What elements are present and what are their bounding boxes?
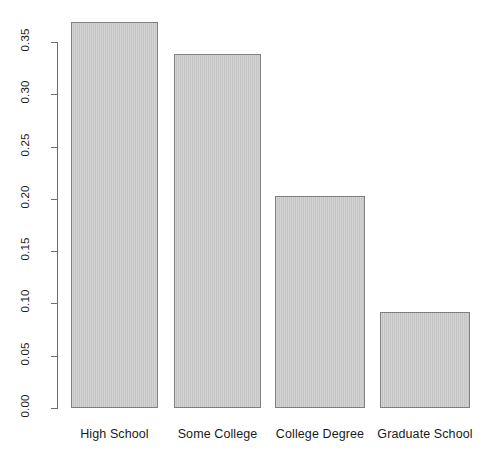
y-axis-tick-label-text: 0.10 bbox=[19, 278, 31, 324]
x-axis-label-graduate-school: Graduate School bbox=[362, 427, 488, 441]
y-axis-tick-label-text: 0.30 bbox=[19, 69, 31, 115]
bar-chart: 0.350.300.250.200.150.100.050.00 High Sc… bbox=[0, 0, 494, 467]
y-axis-tick-label: 0.15 bbox=[2, 243, 48, 259]
y-axis-tick bbox=[51, 303, 58, 304]
y-axis-tick-label: 0.05 bbox=[2, 348, 48, 364]
y-axis-tick-label-text: 0.15 bbox=[19, 226, 31, 272]
y-axis-tick-label-text: 0.00 bbox=[19, 383, 31, 429]
y-axis-tick-label: 0.30 bbox=[2, 86, 48, 102]
plot-area: 0.350.300.250.200.150.100.050.00 High Sc… bbox=[0, 0, 494, 467]
y-axis-tick-label: 0.20 bbox=[2, 191, 48, 207]
y-axis-tick bbox=[51, 147, 58, 148]
bar-graduate-school bbox=[380, 312, 470, 408]
y-axis-tick-label-text: 0.35 bbox=[19, 17, 31, 63]
bar-high-school bbox=[71, 22, 158, 408]
bar-college-degree bbox=[275, 196, 365, 408]
y-axis-tick bbox=[51, 356, 58, 357]
y-axis-tick bbox=[51, 408, 58, 409]
y-axis-tick-label-text: 0.25 bbox=[19, 122, 31, 168]
y-axis-tick-label: 0.25 bbox=[2, 139, 48, 155]
y-axis-tick bbox=[51, 199, 58, 200]
y-axis-tick-label: 0.10 bbox=[2, 295, 48, 311]
y-axis-tick-label: 0.00 bbox=[2, 400, 48, 416]
y-axis-tick-label-text: 0.05 bbox=[19, 331, 31, 377]
y-axis-tick-label: 0.35 bbox=[2, 34, 48, 50]
y-axis-tick bbox=[51, 42, 58, 43]
bar-some-college bbox=[174, 54, 261, 408]
y-axis-tick bbox=[51, 251, 58, 252]
y-axis-line bbox=[57, 42, 58, 409]
y-axis-tick bbox=[51, 94, 58, 95]
y-axis-tick-label-text: 0.20 bbox=[19, 174, 31, 220]
